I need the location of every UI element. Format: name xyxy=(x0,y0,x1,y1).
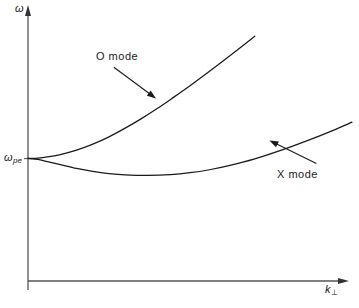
y-axis-arrowhead-icon xyxy=(25,5,31,16)
x-axis-label: k⊥ xyxy=(325,283,339,297)
plot-canvas xyxy=(0,0,359,308)
o-mode-arrowhead-icon xyxy=(147,91,156,99)
o-mode-annotation-label: O mode xyxy=(96,50,138,62)
omega-pe-subscript: pe xyxy=(13,156,22,165)
omega-pe-base: ω xyxy=(4,151,13,163)
dispersion-relation-figure: ω ωpe k⊥ O mode X mode xyxy=(0,0,359,308)
x-mode-annotation-label: X mode xyxy=(277,168,318,180)
o-mode-leader-line xyxy=(114,67,152,95)
y-axis-label: ω xyxy=(15,2,24,14)
x-axis-arrowhead-icon xyxy=(338,278,349,284)
x-mode-arrowhead-icon xyxy=(269,140,278,147)
k-perp-subscript: ⊥ xyxy=(331,288,339,297)
curve-o-mode xyxy=(28,36,255,158)
omega-pe-tick-label: ωpe xyxy=(4,151,22,165)
x-mode-leader-line xyxy=(274,143,316,164)
